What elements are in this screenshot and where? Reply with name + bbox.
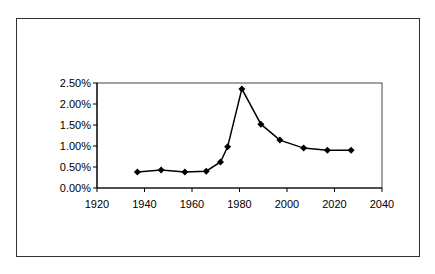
x-tick-label: 1960	[180, 198, 204, 210]
diamond-marker	[158, 166, 165, 173]
line-chart: 0.00%0.50%1.00%1.50%2.00%2.50% 192019401…	[0, 0, 435, 274]
y-tick-label: 0.50%	[60, 161, 91, 173]
y-tick-label: 1.50%	[60, 119, 91, 131]
series-line	[137, 89, 351, 172]
y-axis: 0.00%0.50%1.00%1.50%2.00%2.50%	[60, 77, 97, 194]
x-axis: 1920194019601980200020202040	[85, 188, 394, 210]
x-tick-label: 2000	[275, 198, 299, 210]
diamond-marker	[348, 147, 355, 154]
data-series	[134, 85, 355, 175]
diamond-marker	[134, 169, 141, 176]
y-tick-label: 0.00%	[60, 182, 91, 194]
diamond-marker	[224, 143, 231, 150]
x-tick-label: 1920	[85, 198, 109, 210]
diamond-marker	[300, 145, 307, 152]
y-tick-label: 2.50%	[60, 77, 91, 89]
diamond-marker	[238, 85, 245, 92]
x-tick-label: 1940	[132, 198, 156, 210]
diamond-marker	[181, 169, 188, 176]
diamond-marker	[324, 147, 331, 154]
x-tick-label: 2020	[322, 198, 346, 210]
y-tick-label: 2.00%	[60, 98, 91, 110]
x-tick-label: 1980	[227, 198, 251, 210]
x-tick-label: 2040	[370, 198, 394, 210]
y-tick-label: 1.00%	[60, 140, 91, 152]
